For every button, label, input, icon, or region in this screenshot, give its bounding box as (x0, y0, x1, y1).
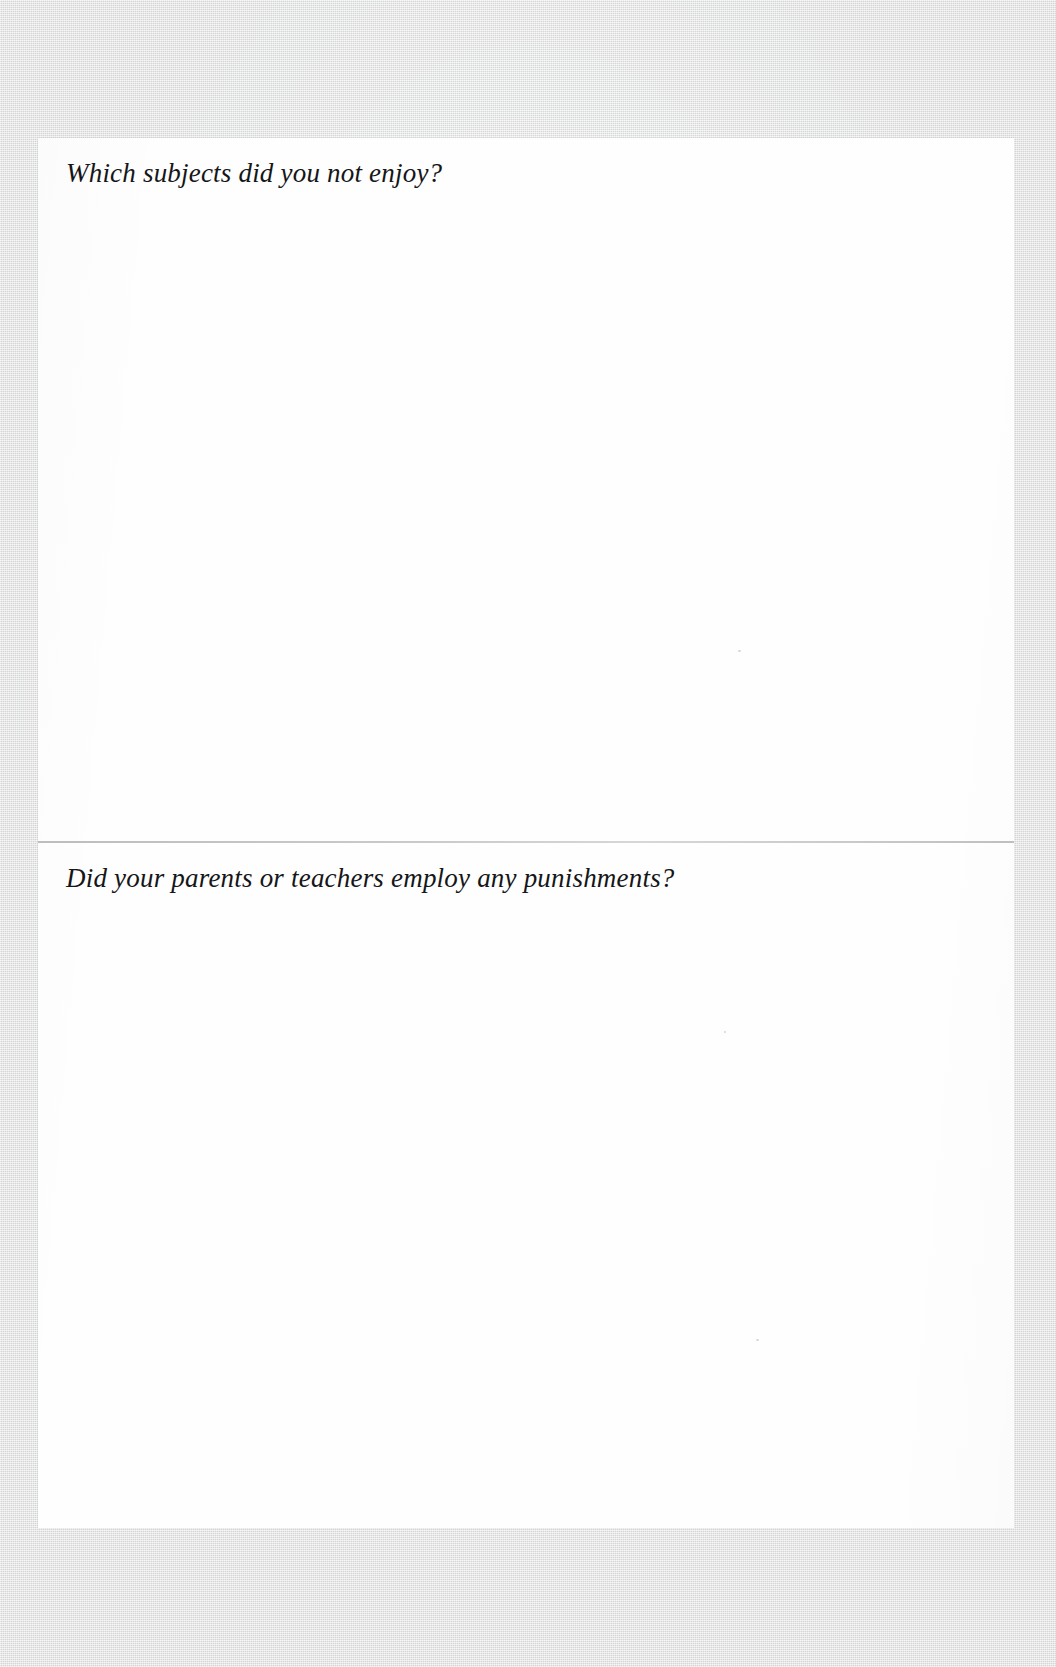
scan-speckle (738, 650, 741, 652)
scan-speckle (756, 1339, 759, 1341)
scan-speckle (724, 1031, 726, 1033)
document-page: Which subjects did you not enjoy? Did yo… (38, 138, 1014, 1528)
question-block-2: Did your parents or teachers employ any … (38, 843, 1014, 1528)
answer-area-1[interactable] (66, 200, 986, 831)
question-prompt-2: Did your parents or teachers employ any … (66, 861, 675, 895)
answer-area-2[interactable] (66, 905, 986, 1518)
question-prompt-1: Which subjects did you not enjoy? (66, 156, 442, 190)
question-block-1: Which subjects did you not enjoy? (38, 138, 1014, 841)
